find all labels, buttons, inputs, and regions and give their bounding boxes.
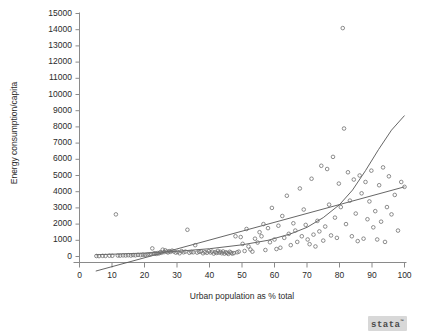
data-point bbox=[358, 174, 362, 178]
data-point bbox=[300, 234, 304, 238]
y-tick-label: 9000 bbox=[22, 105, 72, 115]
y-tick-label: 2000 bbox=[22, 218, 72, 228]
data-point bbox=[373, 209, 377, 213]
data-point bbox=[372, 226, 376, 230]
data-point bbox=[385, 205, 389, 209]
data-point bbox=[370, 169, 374, 173]
data-point bbox=[310, 177, 314, 181]
data-point bbox=[253, 237, 257, 241]
trademark-mark: ™ bbox=[401, 319, 405, 325]
y-tick-label: 14000 bbox=[22, 24, 72, 34]
x-tick-label: 100 bbox=[385, 270, 425, 280]
data-point bbox=[285, 194, 289, 198]
data-point bbox=[379, 220, 383, 224]
data-point bbox=[298, 187, 302, 191]
data-point bbox=[295, 240, 299, 244]
data-point bbox=[360, 192, 364, 196]
y-tick-label: 4000 bbox=[22, 186, 72, 196]
data-point bbox=[306, 238, 310, 242]
data-point bbox=[377, 183, 381, 187]
y-tick-label: 3000 bbox=[22, 202, 72, 212]
data-point bbox=[375, 238, 379, 242]
data-point bbox=[333, 216, 337, 220]
data-point bbox=[308, 242, 312, 246]
y-tick-label: 11000 bbox=[22, 72, 72, 82]
data-point bbox=[114, 213, 118, 217]
scatter-plot-svg bbox=[0, 0, 426, 336]
data-point bbox=[335, 236, 339, 240]
data-point bbox=[329, 234, 333, 238]
data-point bbox=[270, 206, 274, 210]
y-tick-label: 12000 bbox=[22, 56, 72, 66]
data-point bbox=[260, 234, 264, 238]
chart-container: Energy consumption/capita Urban populati… bbox=[0, 0, 426, 336]
data-point bbox=[292, 221, 296, 225]
data-point bbox=[186, 228, 190, 232]
data-point bbox=[304, 223, 308, 227]
data-point bbox=[282, 236, 286, 240]
data-point bbox=[331, 155, 335, 159]
data-point bbox=[281, 214, 285, 218]
data-point bbox=[350, 234, 354, 238]
data-point bbox=[383, 240, 387, 244]
data-point bbox=[390, 213, 394, 217]
data-point bbox=[266, 226, 270, 230]
y-tick-label: 13000 bbox=[22, 40, 72, 50]
y-tick-label: 10000 bbox=[22, 89, 72, 99]
data-point bbox=[354, 212, 358, 216]
data-point bbox=[320, 164, 324, 168]
data-point bbox=[289, 243, 293, 247]
data-point bbox=[151, 247, 155, 251]
linear-fit bbox=[96, 187, 405, 271]
data-point bbox=[312, 233, 316, 237]
data-point bbox=[243, 249, 247, 253]
data-point bbox=[356, 239, 360, 243]
y-tick-label: 7000 bbox=[22, 137, 72, 147]
y-tick-label: 1000 bbox=[22, 234, 72, 244]
y-tick-label: 5000 bbox=[22, 170, 72, 180]
data-point bbox=[327, 203, 331, 207]
data-point bbox=[325, 167, 329, 171]
y-tick-label: 0 bbox=[22, 251, 72, 261]
y-tick-label: 8000 bbox=[22, 121, 72, 131]
axis-layer bbox=[74, 13, 407, 268]
data-point bbox=[234, 234, 238, 238]
data-point bbox=[396, 229, 400, 233]
data-point bbox=[275, 247, 279, 251]
data-point bbox=[264, 248, 268, 252]
data-point bbox=[364, 180, 368, 184]
data-point bbox=[302, 208, 306, 212]
data-point bbox=[323, 225, 327, 229]
y-tick-label: 15000 bbox=[22, 8, 72, 18]
data-point bbox=[239, 235, 243, 239]
data-point bbox=[393, 193, 397, 197]
data-point bbox=[314, 245, 318, 249]
data-point bbox=[277, 224, 281, 228]
data-point bbox=[346, 170, 350, 174]
data-points-layer bbox=[95, 26, 407, 258]
data-point bbox=[279, 246, 283, 250]
data-point bbox=[258, 230, 262, 234]
data-point bbox=[268, 240, 272, 244]
data-point bbox=[387, 175, 391, 179]
data-point bbox=[318, 230, 322, 234]
data-point bbox=[344, 222, 348, 226]
data-point bbox=[381, 166, 385, 170]
exponential-fit bbox=[96, 116, 405, 255]
data-point bbox=[362, 237, 366, 241]
data-point bbox=[368, 200, 372, 204]
data-point bbox=[337, 182, 341, 186]
y-tick-label: 6000 bbox=[22, 153, 72, 163]
data-point bbox=[352, 178, 356, 182]
data-point bbox=[342, 127, 346, 131]
data-point bbox=[399, 180, 403, 184]
stata-logo: stata™ bbox=[368, 316, 407, 331]
data-point bbox=[366, 217, 370, 221]
data-point bbox=[339, 205, 343, 209]
data-point bbox=[321, 239, 325, 243]
stata-logo-text: stata bbox=[371, 320, 401, 330]
data-point bbox=[341, 26, 345, 30]
